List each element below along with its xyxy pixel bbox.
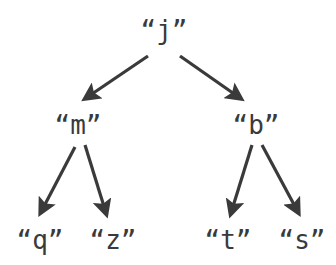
node-q: “q”	[17, 225, 64, 255]
node-m: “m”	[55, 110, 102, 140]
node-b: “b”	[233, 110, 280, 140]
node-s: “s”	[279, 225, 326, 255]
edge-left-left-right	[85, 145, 106, 213]
edge-right-right-left	[231, 145, 252, 213]
tree-diagram: “j” “m” “b” “q” “z” “t” “s”	[0, 0, 336, 265]
edge-left-left-left	[41, 147, 75, 212]
node-z: “z”	[90, 225, 137, 255]
edge-root-left	[86, 56, 148, 98]
edge-right-right-right	[262, 145, 298, 212]
node-root-j: “j”	[141, 15, 188, 45]
edge-root-right	[180, 56, 240, 98]
node-t: “t”	[205, 225, 252, 255]
